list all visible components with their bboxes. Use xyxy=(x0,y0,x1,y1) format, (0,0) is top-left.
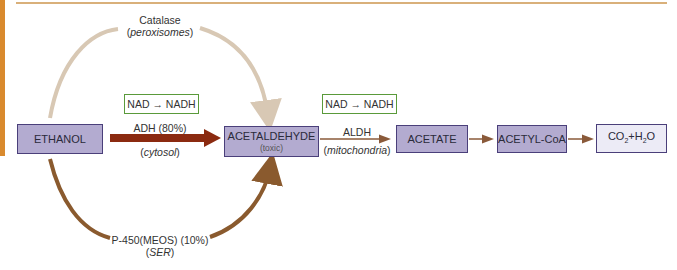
node-acetyl-coa: ACETYL-CoA xyxy=(497,125,567,153)
adh-enzyme-label: ADH (80%) xyxy=(120,122,200,134)
p450-arrow xyxy=(50,159,110,238)
node-co2-h2o: CO2+H2O xyxy=(596,124,667,153)
aldh-location-label: (mitochondria) xyxy=(318,144,396,156)
catalase-location: peroxisomes xyxy=(130,26,190,38)
node-ethanol: ETHANOL xyxy=(17,124,103,154)
cofactor-box-adh: NAD → NADH xyxy=(124,94,199,114)
cofactor-box-aldh: NAD → NADH xyxy=(322,94,397,114)
node-acetaldehyde: ACETALDEHYDE (toxic) xyxy=(224,126,319,157)
p450-location: SER xyxy=(149,246,171,258)
catalase-label: Catalase (peroxisomes) xyxy=(110,14,210,38)
acetaldehyde-note: (toxic) xyxy=(260,142,283,154)
adh-arrow xyxy=(110,134,206,142)
catalase-enzyme: Catalase xyxy=(110,14,210,26)
p450-label: P-450(MEOS) (10%) (SER) xyxy=(105,234,215,258)
acetaldehyde-label: ACETALDEHYDE xyxy=(228,130,316,142)
aldh-enzyme-label: ALDH xyxy=(322,126,392,138)
adh-location-label: (cytosol) xyxy=(120,146,200,158)
catalase-arrow xyxy=(50,29,118,118)
node-acetate: ACETATE xyxy=(396,125,468,153)
p450-enzyme: P-450(MEOS) (10%) xyxy=(105,234,215,246)
